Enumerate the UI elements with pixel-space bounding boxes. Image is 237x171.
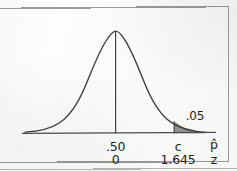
horizontal-axis (23, 132, 216, 133)
phat-axis-label: p̂ (210, 139, 218, 152)
critical-value-z-label: 1.645 (161, 154, 196, 167)
z-axis-label: z (211, 154, 218, 167)
center-z-label: 0 (112, 154, 120, 167)
normal-curve-figure: .05 .50 0 c 1.645 p̂ z (0, 0, 237, 171)
tail-area-label: .05 (186, 110, 204, 122)
